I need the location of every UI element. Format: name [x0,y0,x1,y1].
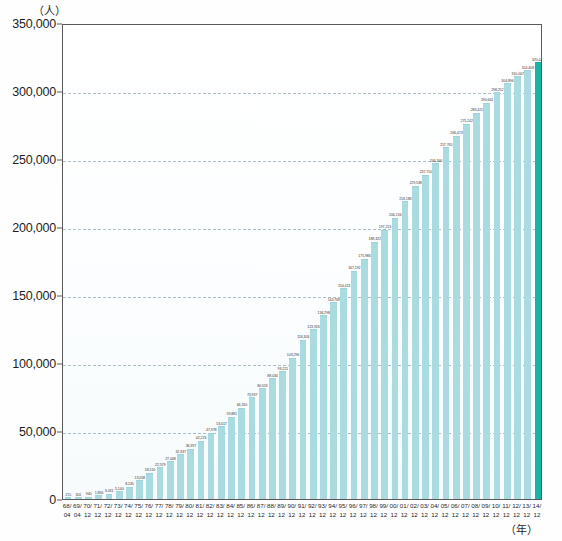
bar[interactable]: 301 [75,497,82,499]
x-axis-month: 12 [440,511,450,520]
bar[interactable]: 66,310 [238,408,245,499]
bar[interactable]: 32,337 [177,454,184,499]
bar[interactable]: 266,473 [453,136,460,499]
x-axis-month: 12 [144,511,154,520]
bar-slot: 103,296 [289,24,296,499]
bar-slot: 36,397 [187,24,194,499]
x-axis-tick-label: 88/12 [266,502,276,519]
bar[interactable]: 154,413 [340,288,347,499]
bar-value-label: 88,034 [267,374,277,378]
bar-value-label: 93,221 [278,367,288,371]
bar[interactable]: 290,661 [483,103,490,499]
bar-slot: 206,134 [392,24,399,499]
bar-slot: 229,538 [412,24,419,499]
bar[interactable]: 18,510 [146,473,153,499]
x-axis-year: 97/ [358,502,368,511]
bar[interactable]: 42,223 [198,441,205,499]
bar[interactable]: 80,553 [259,388,266,499]
x-axis-year: 74/ [123,502,133,511]
x-axis-year: 82/ [205,502,215,511]
bar[interactable]: 47,978 [208,433,215,499]
bar[interactable]: 3,031 [106,494,113,499]
x-axis-year: 04/ [430,502,440,511]
chart-root: （人） 050,000100,000150,000200,000250,0003… [0,0,562,541]
bar[interactable]: 103,296 [289,358,296,499]
x-axis-tick-label: 04/12 [430,502,440,519]
x-axis-year: 76/ [144,502,154,511]
bar[interactable]: 229,538 [412,186,419,499]
bar[interactable]: 218,183 [402,201,409,499]
bar-slot: 304,896 [504,24,511,499]
bar[interactable]: 246,166 [432,163,439,499]
bar[interactable]: 143,769 [330,302,337,499]
bar[interactable]: 22,579 [157,467,164,499]
bar[interactable]: 1,856 [95,495,102,499]
bar[interactable]: 310,007 [514,76,521,499]
bar[interactable]: 59,881 [228,417,235,499]
bar[interactable]: 188,322 [371,242,378,499]
bar-value-label: 36,397 [186,444,196,448]
bar-value-label: 123,926 [307,325,319,329]
bar[interactable]: 237,710 [422,175,429,499]
x-axis-tick-label: 99/12 [379,502,389,519]
bar[interactable]: 215 [65,497,72,499]
y-axis-tick-label: 300,000 [12,85,56,99]
x-axis-tick-label: 92/12 [307,502,317,519]
bar-slot: 32,337 [177,24,184,499]
bar[interactable]: 134,298 [320,315,327,499]
bar[interactable]: 123,926 [310,329,317,499]
bar[interactable]: 275,242 [463,124,470,499]
bar[interactable]: 5,140 [116,491,123,499]
bar-value-label: 275,242 [460,119,472,123]
bar[interactable]: 283,421 [473,113,480,499]
x-axis-year: 89/ [276,502,286,511]
x-axis-year: 01/ [399,502,409,511]
bar[interactable]: 304,896 [504,83,511,499]
x-axis-year: 83/ [215,502,225,511]
x-axis-year: 02/ [409,502,419,511]
x-axis-tick-label: 77/12 [154,502,164,519]
x-axis-month: 12 [491,511,501,520]
x-axis-tick-label: 93/12 [317,502,327,519]
x-axis-month: 12 [338,511,348,520]
bar-slot: 237,710 [422,24,429,499]
bar-value-label: 320,448 [532,58,542,62]
bar[interactable]: 8,245 [126,487,133,499]
bar[interactable]: 13,058 [136,480,143,499]
bar[interactable]: 257,765 [443,147,450,499]
bar-slot: 59,881 [228,24,235,499]
x-axis-tick-label: 94/12 [328,502,338,519]
bar[interactable]: 116,303 [300,340,307,499]
x-axis-tick-label: 78/12 [164,502,174,519]
bar-value-label: 246,166 [430,159,442,163]
x-axis-year: 80/ [185,502,195,511]
bar[interactable]: 314,408 [524,70,531,499]
bar[interactable]: 175,986 [361,259,368,499]
bar-slot: 310,007 [514,24,521,499]
bar[interactable]: 940 [85,497,92,499]
plot-area: 2153019401,8563,0315,1408,24513,05818,51… [62,24,542,500]
bar[interactable]: 197,213 [381,230,388,499]
x-axis-year: 07/ [460,502,470,511]
bar[interactable]: 27,048 [167,461,174,499]
bar-slot: 1,856 [95,24,102,499]
x-axis-month: 12 [450,511,460,520]
bar[interactable]: 298,252 [494,92,501,499]
bar[interactable]: 73,937 [249,397,256,499]
x-axis-month: 12 [215,511,225,520]
bar-value-label: 73,937 [247,393,257,397]
x-axis-year: 72/ [103,502,113,511]
bar[interactable]: 206,134 [392,218,399,499]
bar[interactable]: 93,221 [279,371,286,499]
bar[interactable]: 36,397 [187,449,194,499]
x-axis-year: 00/ [389,502,399,511]
bar-value-label: 5,140 [115,487,124,491]
bar[interactable]: 167,192 [351,271,358,499]
x-axis-tick-label: 09/12 [481,502,491,519]
bar[interactable]: 88,034 [269,378,276,499]
x-axis-month: 12 [389,511,399,520]
x-axis-month: 12 [246,511,256,520]
x-axis-month: 12 [225,511,235,520]
bar[interactable]: 53,017 [218,426,225,499]
bar[interactable]: 320,448 [535,62,542,499]
